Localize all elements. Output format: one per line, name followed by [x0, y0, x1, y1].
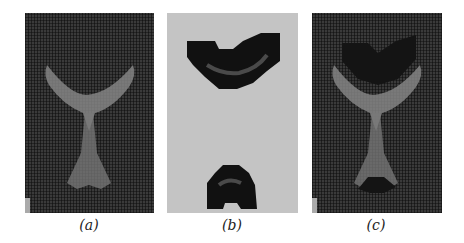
brain-structure-a [25, 13, 154, 213]
panel-a-image [25, 13, 154, 213]
segmentation-mask-b [167, 13, 298, 213]
caption-b: (b) [212, 217, 252, 233]
caption-c: (c) [356, 217, 396, 233]
brain-structure-c [312, 13, 442, 213]
panel-b-image [167, 13, 298, 213]
panel-c-image [312, 13, 442, 213]
caption-a: (a) [69, 217, 109, 233]
